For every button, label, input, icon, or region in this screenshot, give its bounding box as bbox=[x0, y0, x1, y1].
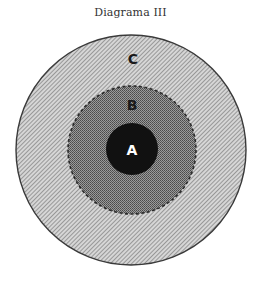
circle-a: A bbox=[106, 123, 158, 175]
circle-c-label: C bbox=[128, 51, 138, 67]
circle-a-label: A bbox=[127, 142, 138, 158]
concentric-circles-diagram: C B A bbox=[0, 0, 261, 281]
circle-b-label: B bbox=[127, 97, 138, 113]
